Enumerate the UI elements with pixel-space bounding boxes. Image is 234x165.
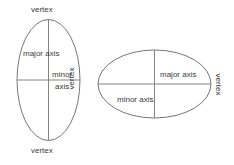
vertical-ellipse-vertex-top-label: vertex bbox=[31, 5, 53, 14]
ellipse-diagram bbox=[0, 0, 234, 165]
diagram-canvas: vertex major axis minor axis vertex vert… bbox=[0, 0, 234, 165]
horizontal-ellipse-vertex-right-label: vertex bbox=[214, 70, 223, 100]
vertical-ellipse-major-axis-label: major axis bbox=[23, 49, 59, 58]
horizontal-ellipse-minor-axis-label: minor axis bbox=[117, 95, 153, 104]
horizontal-ellipse-vertex-left-label-shared: vertex bbox=[67, 64, 76, 94]
vertical-ellipse-vertex-bottom-label: vertex bbox=[31, 146, 53, 155]
horizontal-ellipse-major-axis-label: major axis bbox=[160, 70, 196, 79]
